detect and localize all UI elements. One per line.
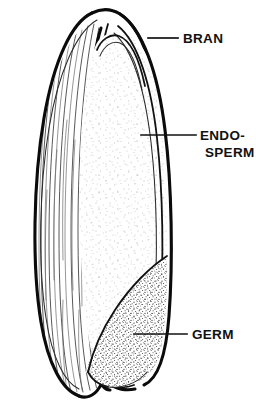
endosperm-label-line-1: ENDO- (200, 128, 245, 143)
kernel-diagram-svg: BRAN ENDO- SPERM GERM (0, 0, 256, 404)
bran-label-text: BRAN (183, 31, 223, 46)
germ-label-text: GERM (192, 327, 234, 342)
label-bran: BRAN (148, 31, 223, 46)
endosperm-label-line-2: SPERM (205, 145, 255, 160)
wheat-kernel-figure: BRAN ENDO- SPERM GERM (0, 0, 256, 404)
